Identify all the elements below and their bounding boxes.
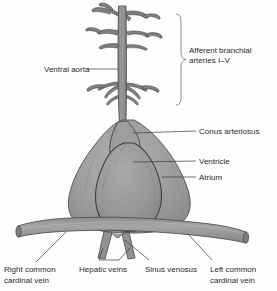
label-left-common-cardinal-vein-line1: Left common (210, 265, 256, 274)
label-afferent-branchial-line1: Afferent branchial (189, 46, 252, 55)
label-atrium: Atrium (199, 173, 222, 182)
label-sinus-venosus: Sinus venosus (145, 265, 197, 274)
right-common-cardinal-vein (16, 226, 21, 237)
anatomy-figure: Ventral aorta Afferent branchial arterie… (0, 0, 277, 291)
label-left-common-cardinal-vein-line2: cardinal vein (210, 276, 255, 285)
label-right-common-cardinal-vein-line1: Right common (4, 265, 56, 274)
label-afferent-branchial-line2: arteries I–V (189, 56, 231, 65)
label-right-common-cardinal-vein-line2: cardinal vein (4, 276, 49, 285)
ventral-aorta (118, 6, 126, 124)
label-conus-arteriosus: Conus arteriosus (199, 127, 259, 136)
left-common-cardinal-vein (243, 232, 248, 243)
anatomy-illustration: Ventral aorta Afferent branchial arterie… (0, 0, 277, 291)
label-ventral-aorta: Ventral aorta (44, 65, 90, 74)
label-hepatic-veins: Hepatic veins (79, 265, 127, 274)
label-ventricle: Ventricle (199, 157, 230, 166)
